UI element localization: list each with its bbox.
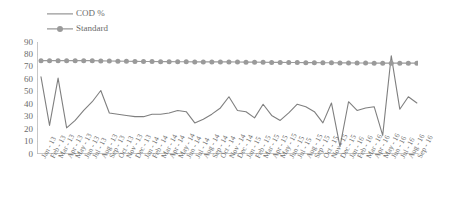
series-marker-standard: [132, 59, 137, 64]
series-marker-standard: [39, 58, 44, 63]
y-axis-tick-label: 90: [3, 38, 33, 47]
series-marker-standard: [320, 60, 325, 65]
series-marker-standard: [269, 60, 274, 65]
series-marker-standard: [64, 58, 69, 63]
series-marker-standard: [235, 60, 240, 65]
series-marker-standard: [209, 59, 214, 64]
series-marker-standard: [98, 58, 103, 63]
y-axis-tick-label: 70: [3, 62, 33, 71]
legend-line-swatch-standard: [47, 24, 73, 34]
series-line-cod: [41, 56, 417, 147]
y-axis-tick-label: 50: [3, 87, 33, 96]
line-glyph: [47, 13, 73, 14]
series-marker-standard: [47, 58, 52, 63]
series-marker-standard: [90, 58, 95, 63]
series-marker-standard: [312, 60, 317, 65]
series-marker-standard: [295, 60, 300, 65]
series-marker-standard: [406, 61, 411, 66]
series-marker-standard: [372, 61, 377, 66]
series-marker-standard: [397, 61, 402, 66]
y-axis-tick-label: 40: [3, 100, 33, 109]
series-marker-standard: [175, 59, 180, 64]
series-marker-standard: [192, 59, 197, 64]
series-marker-standard: [124, 59, 129, 64]
series-marker-standard: [286, 60, 291, 65]
series-marker-standard: [141, 59, 146, 64]
legend-label-standard: Standard: [76, 24, 108, 33]
series-marker-standard: [150, 59, 155, 64]
series-marker-standard: [81, 58, 86, 63]
series-marker-standard: [261, 60, 266, 65]
series-marker-standard: [56, 58, 61, 63]
series-marker-standard: [218, 59, 223, 64]
series-marker-standard: [115, 59, 120, 64]
series-marker-standard: [201, 59, 206, 64]
y-axis-tick-label: 0: [3, 150, 33, 159]
series-marker-standard: [337, 60, 342, 65]
series-marker-standard: [252, 60, 257, 65]
series-marker-standard: [389, 61, 394, 66]
series-marker-standard: [363, 61, 368, 66]
circle-marker-icon: [57, 26, 63, 32]
y-axis: 0102030405060708090: [0, 42, 33, 154]
y-axis-tick-label: 80: [3, 50, 33, 59]
y-axis-tick-label: 20: [3, 125, 33, 134]
series-marker-standard: [73, 58, 78, 63]
series-marker-standard: [107, 59, 112, 64]
series-marker-standard: [380, 61, 385, 66]
series-marker-standard: [329, 60, 334, 65]
series-marker-standard: [346, 60, 351, 65]
legend-item-cod: COD %: [47, 7, 108, 20]
chart-legend: COD % Standard: [47, 7, 108, 37]
legend-label-cod: COD %: [76, 9, 105, 18]
y-axis-tick-label: 60: [3, 75, 33, 84]
chart-container: COD % Standard 0102030405060708090 Jan -…: [0, 0, 455, 202]
x-axis: Jan - 13Feb - 13Mar - 13Apr - 13May - 13…: [37, 156, 422, 202]
series-marker-standard: [167, 59, 172, 64]
series-marker-standard: [184, 59, 189, 64]
series-marker-standard: [158, 59, 163, 64]
series-marker-standard: [278, 60, 283, 65]
y-axis-tick-label: 30: [3, 112, 33, 121]
legend-item-standard: Standard: [47, 22, 108, 35]
legend-line-swatch-cod: [47, 9, 73, 19]
series-marker-standard: [414, 61, 418, 66]
series-marker-standard: [226, 59, 231, 64]
series-marker-standard: [355, 61, 360, 66]
series-marker-standard: [244, 60, 249, 65]
series-marker-standard: [303, 60, 308, 65]
y-axis-tick-label: 10: [3, 137, 33, 146]
